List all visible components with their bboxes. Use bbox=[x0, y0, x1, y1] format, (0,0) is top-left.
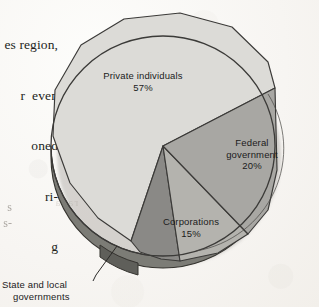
pie-label-private-individuals-name: Private individuals bbox=[103, 70, 182, 81]
pie-label-private-individuals: Private individuals 57% bbox=[84, 70, 202, 93]
pie-label-private-individuals-value: 57% bbox=[84, 82, 202, 94]
pie-label-state-and-local-governments: State and local governments bbox=[2, 279, 70, 302]
pie-label-federal-government: Federal government 20% bbox=[204, 137, 300, 172]
pie-label-state-and-local-governments-line-2: governments bbox=[2, 291, 70, 303]
pie-label-federal-government-name-1: Federal bbox=[235, 137, 268, 148]
pie-label-federal-government-value: 20% bbox=[204, 160, 300, 172]
pie-label-state-and-local-governments-line-1: State and local bbox=[2, 279, 67, 290]
pie-label-federal-government-name-2: government bbox=[226, 149, 278, 160]
pie-label-corporations: Corporations 15% bbox=[148, 216, 234, 239]
pie-label-corporations-name: Corporations bbox=[163, 216, 219, 227]
pie-label-corporations-value: 15% bbox=[148, 228, 234, 240]
